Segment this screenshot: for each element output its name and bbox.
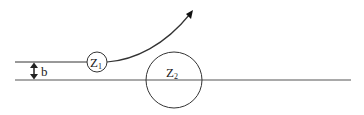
deflected-trajectory [107,14,190,62]
particle-z2-label: Z2 [166,65,178,81]
scattering-diagram: b Z1 Z2 [0,0,364,115]
impact-parameter-arrow-icon [30,63,38,80]
impact-parameter-label: b [41,64,48,79]
